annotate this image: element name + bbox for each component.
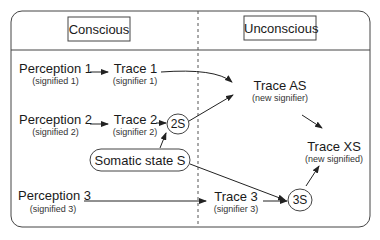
node-3s-label: 3S (288, 194, 312, 206)
perception-2-label: Perception 2 (18, 113, 93, 126)
node-2s-label: 2S (167, 118, 189, 130)
perception-3-sub: (signified 3) (18, 205, 88, 214)
conscious-header-label: Conscious (68, 23, 130, 36)
trace-as-sub: (new signifier) (245, 94, 315, 103)
trace-xs-label: Trace XS (300, 140, 368, 153)
trace-as-label: Trace AS (245, 79, 315, 92)
trace-1-sub: (signifier 1) (106, 77, 164, 86)
somatic-state-label: Somatic state S (90, 154, 190, 167)
unconscious-header-label: Unconscious (244, 22, 316, 35)
arrow-tas-txs (302, 115, 322, 128)
perception-3-label: Perception 3 (18, 189, 88, 202)
trace-2-label: Trace 2 (108, 113, 163, 126)
arrow-2s-tas (189, 95, 233, 121)
trace-xs-sub: (new signified) (298, 155, 370, 164)
trace-3-sub: (signifier 3) (204, 205, 268, 214)
arrow-t1-tas (161, 71, 232, 82)
trace-1-label: Trace 1 (108, 62, 163, 75)
arrow-3s-txs (306, 166, 319, 186)
perception-1-label: Perception 1 (18, 62, 93, 75)
trace-3-label: Trace 3 (208, 190, 264, 203)
perception-1-sub: (signified 1) (18, 77, 93, 86)
trace-2-sub: (signifier 2) (106, 128, 164, 137)
perception-2-sub: (signified 2) (18, 128, 93, 137)
